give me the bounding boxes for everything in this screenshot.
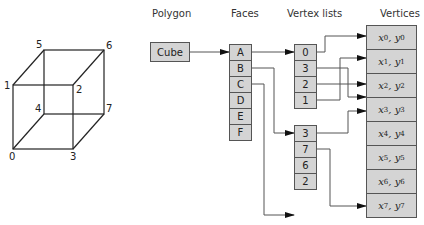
vertex-list-a-item: 2 <box>294 76 317 93</box>
connector-lines <box>0 0 424 225</box>
vertex-7: x7, y7 <box>366 193 417 218</box>
vertex-2: x2, y2 <box>366 73 417 98</box>
face-B: B <box>229 60 252 77</box>
vertex-list-a-item: 1 <box>294 92 317 109</box>
vertex-0: x0, y0 <box>366 25 417 50</box>
face-E: E <box>229 108 252 125</box>
vertex-5: x5, y5 <box>366 145 417 170</box>
polygon-label: Cube <box>157 47 183 58</box>
vertex-1: x1, y1 <box>366 49 417 74</box>
face-C: C <box>229 76 252 93</box>
vertex-list-b-item: 6 <box>294 157 317 174</box>
face-F: F <box>229 124 252 141</box>
vertex-list-b-item: 2 <box>294 173 317 190</box>
vertex-list-a-item: 0 <box>294 44 317 61</box>
vertex-list-b-item: 3 <box>294 125 317 142</box>
face-A: A <box>229 44 252 61</box>
vertex-list-b-item: 7 <box>294 141 317 158</box>
polygon-cube-box: Cube <box>150 42 190 62</box>
vertex-list-a-item: 3 <box>294 60 317 77</box>
vertex-3: x3, y3 <box>366 97 417 122</box>
vertex-4: x4, y4 <box>366 121 417 146</box>
vertex-6: x6, y6 <box>366 169 417 194</box>
face-D: D <box>229 92 252 109</box>
